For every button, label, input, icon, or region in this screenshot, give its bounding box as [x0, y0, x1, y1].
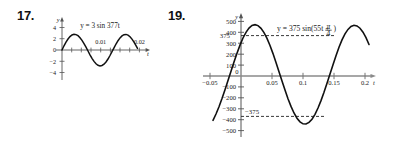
figure-19: 19. 500 400 300 200 100 0 −100 −200 — [165, 0, 403, 151]
y-tick-label-4: 4 — [53, 24, 56, 31]
y-tick-label-neg400: −400 — [222, 116, 236, 123]
plot-17: 4 2 0 −2 −4 0.01 0.02 y t y = 3 sin 377t — [0, 0, 170, 151]
y-tick-label-neg300: −300 — [222, 105, 236, 112]
equation-19-suffix: ) — [334, 24, 337, 33]
equation-19-prefix: y = 375 sin(55t + — [277, 24, 329, 33]
plot-19: 500 400 300 200 100 0 −100 −200 −300 −40… — [165, 0, 403, 151]
equation-19-denominator: 4 — [327, 29, 331, 38]
y-tick-label-neg4: −4 — [49, 69, 56, 76]
x-tick-label-0-2: 0.2 — [361, 79, 369, 86]
y-tick-label-0: 0 — [53, 46, 56, 53]
y-tick-label-neg500: −500 — [222, 127, 236, 134]
y-axis-name-17: y — [56, 16, 60, 23]
x-tick-label-0-1: 0.1 — [299, 79, 307, 86]
x-tick-label-neg0-05: −0.05 — [202, 79, 218, 86]
y-tick-label-neg2: −2 — [49, 58, 56, 65]
x-tick-label-0-05: 0.05 — [266, 79, 278, 86]
x-axis-name-19: t — [373, 79, 375, 86]
y-tick-label-0: 0 — [235, 68, 239, 75]
equation-17: y = 3 sin 377t — [80, 22, 120, 30]
x-axis-name-17: t — [147, 50, 149, 57]
y-axis-name-19: y — [234, 13, 238, 20]
figure-17: 17. 4 2 0 −2 −4 — [0, 0, 170, 151]
y-tick-label-neg200: −200 — [222, 94, 236, 101]
y-tick-label-300: 300 — [226, 40, 237, 47]
amplitude-label-negative: −375 — [245, 108, 260, 115]
x-tick-label-0-15: 0.15 — [328, 79, 340, 86]
y-tick-label-2: 2 — [53, 35, 56, 42]
x-tick-label-0-01: 0.01 — [95, 38, 106, 45]
amplitude-label-positive: 375 — [220, 32, 231, 39]
